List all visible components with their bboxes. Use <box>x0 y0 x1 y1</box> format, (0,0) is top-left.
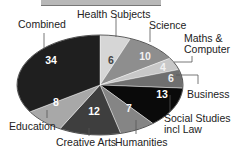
label-social-2: incl Law <box>164 123 202 135</box>
label-humanities: Humanities <box>115 136 168 148</box>
value-health: 6 <box>108 54 114 66</box>
value-business: 6 <box>168 72 174 84</box>
label-maths-2: Computer <box>184 43 231 55</box>
value-combined: 34 <box>45 54 57 66</box>
value-education: 8 <box>53 96 59 108</box>
label-science: Science <box>149 19 187 31</box>
pie-chart: 6 10 4 6 13 7 12 8 34 Health Subjects Sc… <box>0 0 234 151</box>
value-social: 13 <box>156 88 168 100</box>
value-creative: 12 <box>88 105 100 117</box>
value-humanities: 7 <box>126 102 132 114</box>
value-maths: 4 <box>160 61 166 73</box>
label-health-subjects: Health Subjects <box>77 8 151 20</box>
value-science: 10 <box>139 50 151 62</box>
label-business: Business <box>187 88 230 100</box>
label-education: Education <box>9 120 56 132</box>
label-creative-arts: Creative Arts <box>56 136 116 148</box>
label-combined: Combined <box>18 18 66 30</box>
